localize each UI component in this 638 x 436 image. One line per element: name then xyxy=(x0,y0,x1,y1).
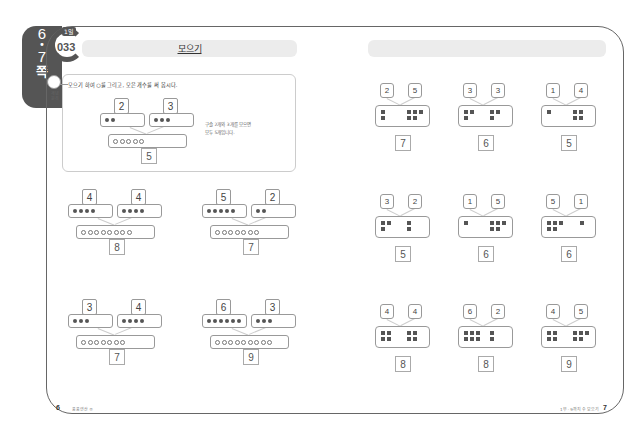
gather-circle-bar[interactable] xyxy=(108,134,187,148)
left-dot-box xyxy=(202,204,247,218)
answer-box[interactable]: 9 xyxy=(243,349,259,365)
right-number-box: 4 xyxy=(574,83,588,98)
square-dot-card xyxy=(458,326,513,348)
filled-dot xyxy=(91,209,95,213)
answer-box[interactable]: 7 xyxy=(395,135,411,151)
drawn-circle xyxy=(94,340,99,345)
right-dot-box xyxy=(251,314,296,328)
square-dot-group xyxy=(381,110,385,120)
drawn-circle xyxy=(254,340,259,345)
gather-circle-bar[interactable] xyxy=(210,335,289,349)
square-dot xyxy=(490,227,494,231)
left-dot-box xyxy=(68,204,113,218)
left-number-box: 6 xyxy=(463,304,477,319)
square-dot-group xyxy=(464,110,474,120)
square-dot xyxy=(381,227,385,231)
gather-circle-bar[interactable] xyxy=(76,335,155,349)
square-dot-group xyxy=(381,221,391,231)
answer-box[interactable]: 5 xyxy=(561,135,577,151)
answer-box[interactable]: 7 xyxy=(243,239,259,255)
square-dot xyxy=(490,116,494,120)
answer-box[interactable]: 6 xyxy=(478,246,494,262)
square-dot-group xyxy=(547,221,563,231)
answer-box[interactable]: 6 xyxy=(478,135,494,151)
drawn-circle xyxy=(120,139,125,144)
square-dot-card xyxy=(375,216,430,238)
square-dot xyxy=(464,110,468,114)
left-number-box: 1 xyxy=(463,194,477,209)
right-dot-box xyxy=(251,204,296,218)
left-number-box: 5 xyxy=(216,189,231,205)
drawn-circle xyxy=(241,340,246,345)
drawn-circle xyxy=(215,230,220,235)
left-number-box: 3 xyxy=(82,299,97,315)
answer-box[interactable]: 9 xyxy=(561,356,577,372)
filled-dot xyxy=(268,319,272,323)
square-dot xyxy=(547,221,551,225)
square-dot-card xyxy=(375,326,430,348)
left-dot-box xyxy=(202,314,247,328)
square-dot xyxy=(496,110,500,114)
drawn-circle xyxy=(114,340,119,345)
filled-dot xyxy=(160,118,164,122)
left-number-box: 4 xyxy=(82,189,97,205)
square-dot-group xyxy=(490,331,494,341)
drawn-circle xyxy=(101,230,106,235)
concept-connector xyxy=(60,84,68,85)
lesson-number: 033 xyxy=(57,41,75,53)
square-dot-group xyxy=(490,221,506,231)
square-dot xyxy=(580,221,584,225)
filled-dot xyxy=(219,209,223,213)
filled-dot xyxy=(219,319,223,323)
square-dot xyxy=(419,110,423,114)
square-dot xyxy=(387,337,391,341)
answer-box[interactable]: 8 xyxy=(395,356,411,372)
square-dot xyxy=(381,331,385,335)
empty-cell xyxy=(559,227,563,231)
square-dot xyxy=(464,331,468,335)
note-line-1: 구슬 2개와 3개를 모으면 xyxy=(205,121,251,129)
drawn-circle xyxy=(133,139,138,144)
left-footer-text: 풍풍연산 ⑤ xyxy=(72,406,93,412)
square-dot-group xyxy=(464,331,480,341)
left-number-box: 2 xyxy=(114,98,129,114)
square-dot-card xyxy=(541,326,596,348)
gather-circle-bar[interactable] xyxy=(210,225,289,239)
gather-circle-bar[interactable] xyxy=(76,225,155,239)
right-number-box: 4 xyxy=(131,189,146,205)
square-dot xyxy=(579,331,583,335)
drawn-circle xyxy=(235,340,240,345)
left-number-box: 3 xyxy=(463,83,477,98)
square-dot xyxy=(407,331,411,335)
answer-box[interactable]: 8 xyxy=(478,356,494,372)
filled-dot xyxy=(105,118,109,122)
square-dot xyxy=(553,337,557,341)
square-dot-group xyxy=(490,110,500,120)
empty-cell xyxy=(419,116,423,120)
left-number-box: 5 xyxy=(546,194,560,209)
left-dot-box xyxy=(100,113,145,127)
right-dot-box xyxy=(117,204,162,218)
right-footer-text: 1부 · 9까지 수 모으기 xyxy=(560,406,599,412)
square-dot xyxy=(547,227,551,231)
filled-dot xyxy=(225,319,229,323)
right-number-box: 3 xyxy=(265,299,280,315)
answer-box[interactable]: 8 xyxy=(109,239,125,255)
drawn-circle xyxy=(88,340,93,345)
answer-box[interactable]: 7 xyxy=(109,349,125,365)
square-dot xyxy=(573,116,577,120)
empty-cell xyxy=(470,116,474,120)
answer-box[interactable]: 5 xyxy=(395,246,411,262)
square-dot-card xyxy=(541,216,596,238)
square-dot xyxy=(407,116,411,120)
filled-dot xyxy=(207,319,211,323)
note-line-2: 모두 5개입니다. xyxy=(205,129,251,137)
square-dot-group xyxy=(381,331,391,341)
square-dot-card xyxy=(541,105,596,127)
square-dot-card xyxy=(458,216,513,238)
left-number-box: 3 xyxy=(380,194,394,209)
square-dot-group xyxy=(573,110,583,120)
answer-box[interactable]: 6 xyxy=(561,246,577,262)
drawn-circle xyxy=(139,139,144,144)
right-number-box: 5 xyxy=(408,83,422,98)
